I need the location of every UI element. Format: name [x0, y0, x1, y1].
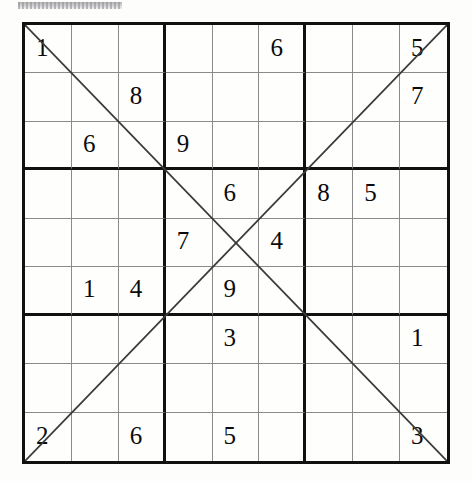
sudoku-cell-r9c3[interactable]: 6: [119, 413, 166, 461]
sudoku-cell-r3c6[interactable]: [259, 122, 306, 170]
sudoku-cell-r5c1[interactable]: [25, 219, 72, 267]
sudoku-cell-r2c1[interactable]: [25, 73, 72, 121]
sudoku-cell-r7c1[interactable]: [25, 316, 72, 364]
sudoku-cell-r4c5[interactable]: 6: [213, 170, 260, 218]
sudoku-cell-r6c2[interactable]: 1: [72, 267, 119, 315]
sudoku-cell-r4c6[interactable]: [259, 170, 306, 218]
sudoku-cell-r2c9[interactable]: 7: [400, 73, 447, 121]
sudoku-cell-r1c6[interactable]: 6: [259, 25, 306, 73]
sudoku-grid[interactable]: 165876968574149312653: [22, 22, 450, 464]
sudoku-cell-r3c1[interactable]: [25, 122, 72, 170]
cell-digit: 5: [353, 180, 377, 208]
cell-digit: 4: [119, 276, 143, 304]
sudoku-cell-r1c8[interactable]: [353, 25, 400, 73]
cell-digit: [353, 288, 364, 291]
sudoku-cell-r3c5[interactable]: [213, 122, 260, 170]
sudoku-cell-r4c7[interactable]: 8: [306, 170, 353, 218]
sudoku-cell-r9c9[interactable]: 3: [400, 413, 447, 461]
sudoku-cell-r7c3[interactable]: [119, 316, 166, 364]
sudoku-cell-r8c2[interactable]: [72, 364, 119, 412]
sudoku-cell-r2c7[interactable]: [306, 73, 353, 121]
sudoku-cell-r7c7[interactable]: [306, 316, 353, 364]
sudoku-cell-r3c4[interactable]: 9: [166, 122, 213, 170]
sudoku-cell-r2c8[interactable]: [353, 73, 400, 121]
sudoku-cell-r7c6[interactable]: [259, 316, 306, 364]
sudoku-cell-r1c2[interactable]: [72, 25, 119, 73]
sudoku-cell-r8c4[interactable]: [166, 364, 213, 412]
sudoku-cell-r5c8[interactable]: [353, 219, 400, 267]
cell-digit: 3: [213, 325, 237, 353]
sudoku-cell-r7c5[interactable]: 3: [213, 316, 260, 364]
sudoku-cell-r6c8[interactable]: [353, 267, 400, 315]
cell-digit: [72, 241, 83, 244]
sudoku-cell-r4c2[interactable]: [72, 170, 119, 218]
cell-digit: [119, 143, 130, 146]
cell-digit: [306, 143, 317, 146]
sudoku-cell-r9c2[interactable]: [72, 413, 119, 461]
sudoku-cell-r1c1[interactable]: 1: [25, 25, 72, 73]
cell-digit: [259, 386, 270, 389]
sudoku-cell-r9c4[interactable]: [166, 413, 213, 461]
cell-digit: [213, 143, 224, 146]
sudoku-cell-r2c5[interactable]: [213, 73, 260, 121]
sudoku-cell-r5c3[interactable]: [119, 219, 166, 267]
sudoku-cell-r3c3[interactable]: [119, 122, 166, 170]
cell-digit: [72, 47, 83, 50]
sudoku-cell-r5c5[interactable]: [213, 219, 260, 267]
sudoku-cell-r4c9[interactable]: [400, 170, 447, 218]
sudoku-cell-r9c1[interactable]: 2: [25, 413, 72, 461]
sudoku-cell-r1c9[interactable]: 5: [400, 25, 447, 73]
cell-digit: [72, 435, 83, 438]
sudoku-cell-r3c9[interactable]: [400, 122, 447, 170]
cell-digit: [119, 338, 130, 341]
sudoku-cell-r6c4[interactable]: [166, 267, 213, 315]
sudoku-cell-r2c3[interactable]: 8: [119, 73, 166, 121]
cell-digit: 1: [72, 276, 96, 304]
sudoku-cell-r1c7[interactable]: [306, 25, 353, 73]
cell-digit: [259, 288, 270, 291]
sudoku-cell-r9c7[interactable]: [306, 413, 353, 461]
cell-digit: 6: [119, 423, 143, 451]
sudoku-cell-r3c2[interactable]: 6: [72, 122, 119, 170]
sudoku-cell-r5c9[interactable]: [400, 219, 447, 267]
sudoku-cell-r5c4[interactable]: 7: [166, 219, 213, 267]
sudoku-cell-r8c9[interactable]: [400, 364, 447, 412]
sudoku-cell-r2c4[interactable]: [166, 73, 213, 121]
sudoku-cell-r5c2[interactable]: [72, 219, 119, 267]
sudoku-cell-r6c3[interactable]: 4: [119, 267, 166, 315]
sudoku-cell-r4c3[interactable]: [119, 170, 166, 218]
sudoku-cell-r5c6[interactable]: 4: [259, 219, 306, 267]
sudoku-cell-r9c8[interactable]: [353, 413, 400, 461]
cell-digit: 5: [213, 423, 237, 451]
sudoku-cell-r4c4[interactable]: [166, 170, 213, 218]
sudoku-cell-r2c6[interactable]: [259, 73, 306, 121]
sudoku-cell-r8c5[interactable]: [213, 364, 260, 412]
sudoku-cell-r7c4[interactable]: [166, 316, 213, 364]
sudoku-cell-r7c9[interactable]: 1: [400, 316, 447, 364]
sudoku-cell-r6c1[interactable]: [25, 267, 72, 315]
sudoku-cell-r8c3[interactable]: [119, 364, 166, 412]
sudoku-cell-r3c8[interactable]: [353, 122, 400, 170]
sudoku-cell-r2c2[interactable]: [72, 73, 119, 121]
sudoku-cell-r1c4[interactable]: [166, 25, 213, 73]
sudoku-cell-r9c6[interactable]: [259, 413, 306, 461]
sudoku-cell-r5c7[interactable]: [306, 219, 353, 267]
sudoku-cell-r6c5[interactable]: 9: [213, 267, 260, 315]
cell-digit: [213, 96, 224, 99]
cell-digit: 9: [166, 131, 190, 159]
sudoku-cell-r7c2[interactable]: [72, 316, 119, 364]
sudoku-cell-r1c5[interactable]: [213, 25, 260, 73]
sudoku-cell-r8c1[interactable]: [25, 364, 72, 412]
sudoku-cell-r1c3[interactable]: [119, 25, 166, 73]
sudoku-cell-r4c1[interactable]: [25, 170, 72, 218]
sudoku-cell-r8c7[interactable]: [306, 364, 353, 412]
sudoku-cell-r3c7[interactable]: [306, 122, 353, 170]
sudoku-cell-r4c8[interactable]: 5: [353, 170, 400, 218]
sudoku-cell-r6c6[interactable]: [259, 267, 306, 315]
sudoku-cell-r8c8[interactable]: [353, 364, 400, 412]
sudoku-cell-r9c5[interactable]: 5: [213, 413, 260, 461]
sudoku-cell-r7c8[interactable]: [353, 316, 400, 364]
sudoku-cell-r6c9[interactable]: [400, 267, 447, 315]
sudoku-cell-r8c6[interactable]: [259, 364, 306, 412]
sudoku-cell-r6c7[interactable]: [306, 267, 353, 315]
